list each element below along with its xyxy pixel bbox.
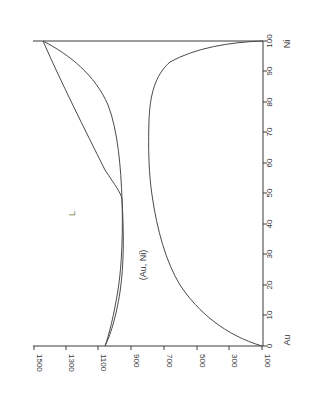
svg-text:90: 90: [265, 66, 274, 75]
svg-text:80: 80: [265, 97, 274, 106]
solvus-curve: [149, 41, 263, 346]
svg-text:70: 70: [265, 127, 274, 136]
svg-text:1300: 1300: [67, 354, 76, 372]
svg-text:20: 20: [265, 280, 274, 289]
composition-tick-labels: 0 10 20 30 40 50 60 70 80 90 100: [265, 34, 274, 348]
svg-text:500: 500: [198, 354, 207, 368]
svg-text:100: 100: [265, 34, 274, 48]
svg-text:0: 0: [265, 343, 274, 348]
liquid-region-label: L: [67, 211, 77, 216]
svg-text:900: 900: [132, 354, 141, 368]
liquidus-curve: [43, 41, 122, 346]
solid-solution-label: (Au, Ni): [138, 250, 148, 281]
svg-text:60: 60: [265, 158, 274, 167]
ni-label: Ni: [282, 40, 292, 49]
temperature-ticks: [34, 346, 262, 350]
svg-text:30: 30: [265, 249, 274, 258]
svg-text:50: 50: [265, 188, 274, 197]
svg-text:1100: 1100: [99, 354, 108, 372]
solidus-curve: [43, 41, 123, 346]
svg-text:1500: 1500: [35, 354, 44, 372]
temperature-tick-labels: 1500 1300 1100 900 700 500 300 100: [35, 354, 272, 372]
au-label: Au: [282, 334, 292, 345]
svg-text:40: 40: [265, 219, 274, 228]
svg-text:10: 10: [265, 310, 274, 319]
svg-text:100: 100: [263, 354, 272, 368]
phase-diagram: 1500 1300 1100 900 700 500 300 100 0 10 …: [0, 0, 316, 393]
svg-text:300: 300: [230, 354, 239, 368]
svg-text:700: 700: [165, 354, 174, 368]
